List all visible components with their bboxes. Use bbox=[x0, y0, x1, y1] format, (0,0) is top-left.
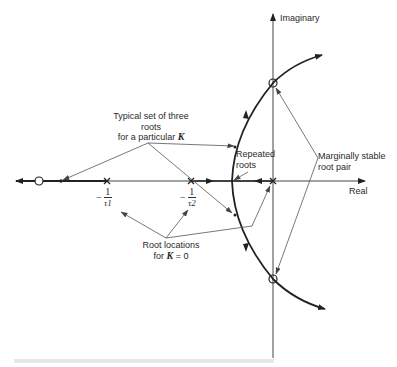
pole-tau2-label: − 1 τ2 bbox=[188, 187, 196, 208]
root-dot bbox=[234, 214, 237, 217]
pole-tau1-label: − 1 τ1 bbox=[104, 187, 112, 208]
root-dot bbox=[59, 179, 63, 183]
locus-direction-arrow bbox=[254, 178, 262, 184]
locus-direction-arrow bbox=[206, 178, 214, 184]
root-locus-diagram bbox=[0, 0, 397, 367]
locus-direction-arrow bbox=[243, 243, 249, 252]
leader-repeated-roots bbox=[234, 172, 248, 180]
annotation-root-locations-k0: Root locations for K = 0 bbox=[140, 240, 202, 261]
leader-typical-roots bbox=[63, 143, 234, 213]
figure-caption-faint bbox=[14, 359, 274, 363]
annotation-marginally-stable: Marginally stable root pair bbox=[318, 151, 386, 172]
zero-marker bbox=[35, 177, 43, 185]
imaginary-axis-label: Imaginary bbox=[280, 13, 320, 24]
annotation-repeated-roots: Repeated roots bbox=[236, 149, 275, 170]
locus-direction-arrow bbox=[243, 110, 249, 119]
real-axis-label: Real bbox=[349, 186, 368, 197]
annotation-typical-roots: Typical set of three roots for a particu… bbox=[108, 111, 194, 143]
